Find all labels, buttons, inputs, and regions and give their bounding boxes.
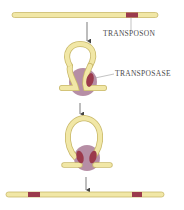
transposase-label: TRANSPOSASE xyxy=(115,70,171,78)
transposon-segment-left xyxy=(28,192,40,197)
transposon-segment-right xyxy=(132,192,142,197)
dna-strand-top xyxy=(12,13,158,18)
transposon-label: TRANSPOSON xyxy=(103,30,155,38)
dna-strand-bottom xyxy=(6,192,164,197)
loop-complex-1 xyxy=(62,44,104,96)
loop-complex-2 xyxy=(64,118,110,171)
transposase-leader-line xyxy=(95,74,114,78)
transposon-segment xyxy=(126,13,138,18)
diagram-canvas xyxy=(0,0,184,210)
transposition-diagram: TRANSPOSON TRANSPOSASE xyxy=(0,0,184,210)
